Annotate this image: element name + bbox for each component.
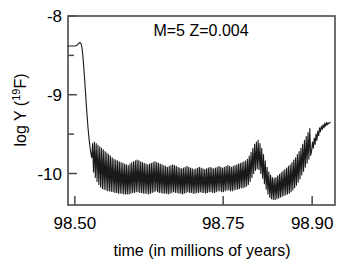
y-tick-label: -9: [47, 86, 62, 105]
figure-container: -8-9-1098.5098.7598.90 M=5 Z=0.004 time …: [0, 0, 352, 267]
y-axis-title: log Y (19F): [10, 73, 29, 146]
model-annotation: M=5 Z=0.004: [153, 22, 248, 39]
x-tick-label: 98.75: [202, 214, 245, 233]
svg-text:log Y (19F): log Y (19F): [10, 73, 29, 146]
x-axis-title: time (in millions of years): [114, 242, 291, 259]
y-title-pre: log Y (: [12, 100, 29, 146]
x-tick-label: 98.50: [54, 214, 97, 233]
y-tick-label: -10: [37, 165, 62, 184]
y-title-superscript: 19: [10, 89, 22, 101]
x-tick-label: 98.90: [291, 214, 334, 233]
y-title-post: F): [12, 73, 29, 88]
fluorine-abundance-chart: -8-9-1098.5098.7598.90 M=5 Z=0.004 time …: [0, 0, 352, 267]
y-tick-label: -8: [47, 7, 62, 26]
